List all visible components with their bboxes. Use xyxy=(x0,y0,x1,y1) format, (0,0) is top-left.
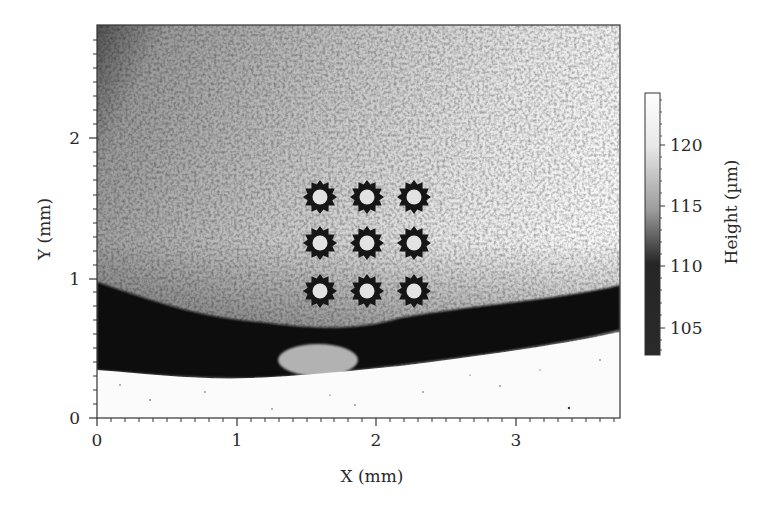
colorbar-tick-label: 105 xyxy=(670,318,702,338)
y-tick-label: 2 xyxy=(69,128,80,148)
y-tick-label: 0 xyxy=(69,408,80,428)
x-tick-label: 3 xyxy=(511,430,522,450)
colorbar-tick-label: 120 xyxy=(670,135,702,155)
x-axis xyxy=(97,418,614,426)
x-axis-label: X (mm) xyxy=(340,466,403,486)
y-axis-label: Y (mm) xyxy=(34,198,54,261)
colorbar xyxy=(645,93,665,355)
x-tick-label: 2 xyxy=(371,430,382,450)
x-tick-label: 1 xyxy=(232,430,243,450)
height-map-image xyxy=(97,25,620,418)
gear-array xyxy=(303,180,431,308)
y-tick-label: 1 xyxy=(69,269,80,289)
colorbar-tick-label: 110 xyxy=(670,256,702,276)
height-map-figure: 0 1 2 3 X (mm) 0 1 2 Y (mm) xyxy=(0,0,772,514)
y-axis xyxy=(89,40,97,418)
colorbar-label: Height (µm) xyxy=(721,160,741,265)
x-tick-label: 0 xyxy=(92,430,103,450)
colorbar-tick-label: 115 xyxy=(670,196,702,216)
